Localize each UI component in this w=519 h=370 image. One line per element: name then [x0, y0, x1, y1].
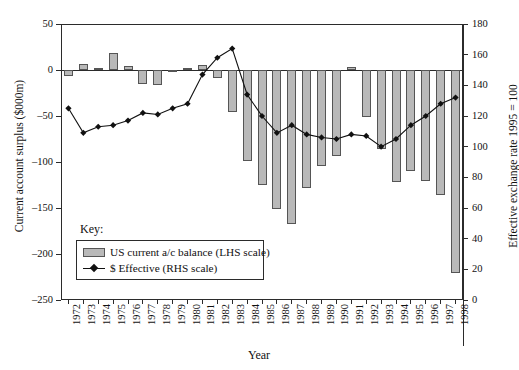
right-axis-tick-label: 20 [472, 264, 483, 275]
right-axis-tick [463, 177, 468, 178]
legend-entry-bar: US current a/c balance (LHS scale) [83, 245, 270, 258]
x-axis-title: Year [0, 348, 518, 363]
x-axis-tick-label: 1988 [311, 304, 322, 325]
right-axis-spine [463, 24, 464, 346]
x-axis-tick-label: 1979 [177, 304, 188, 325]
left-axis-tick [56, 24, 61, 25]
x-axis-tick [321, 300, 322, 304]
x-axis-tick-label: 1984 [251, 304, 262, 325]
x-axis-tick [351, 300, 352, 304]
x-axis-tick [202, 300, 203, 304]
bar [332, 70, 341, 156]
bar [436, 70, 445, 195]
x-axis-tick [98, 300, 99, 304]
x-axis-tick-label: 1998 [460, 304, 471, 325]
right-axis-tick [463, 269, 468, 270]
bar [347, 67, 356, 70]
bar [302, 70, 311, 188]
right-axis-tick-label: 160 [472, 49, 488, 60]
right-axis-tick [463, 54, 468, 55]
x-axis-tick-label: 1983 [236, 304, 247, 325]
x-axis-tick [187, 300, 188, 304]
right-axis-tick-label: 0 [472, 295, 477, 306]
bar [317, 70, 326, 166]
x-axis-tick-label: 1995 [415, 304, 426, 325]
right-axis-tick-label: 100 [472, 141, 488, 152]
bar [153, 70, 162, 85]
left-axis-tick [56, 254, 61, 255]
right-axis-tick-label: 80 [472, 172, 483, 183]
x-axis-tick [157, 300, 158, 304]
x-axis-tick-label: 1993 [385, 304, 396, 325]
left-axis-tick [56, 70, 61, 71]
bar [94, 68, 103, 70]
x-axis-tick [83, 300, 84, 304]
x-axis-tick-label: 1978 [162, 304, 173, 325]
x-axis-tick-label: 1974 [102, 304, 113, 325]
x-axis-tick [172, 300, 173, 304]
right-axis-tick [463, 146, 468, 147]
left-axis-tick-label: 0 [48, 65, 53, 76]
x-axis-tick [113, 300, 114, 304]
bar [213, 70, 222, 78]
left-axis-tick-label: 50 [43, 19, 54, 30]
left-axis-tick-label: –250 [32, 295, 53, 306]
bar [406, 70, 415, 171]
x-axis-tick-label: 1997 [445, 304, 456, 325]
left-axis-tick-label: –200 [32, 249, 53, 260]
x-axis-tick-label: 1977 [147, 304, 158, 325]
x-axis-tick [291, 300, 292, 304]
x-axis-tick [247, 300, 248, 304]
left-axis-tick [56, 300, 61, 301]
x-axis-tick [440, 300, 441, 304]
x-axis-tick [128, 300, 129, 304]
x-axis-tick [262, 300, 263, 304]
x-axis-tick-label: 1980 [192, 304, 203, 325]
left-axis-tick-label: –150 [32, 203, 53, 214]
bar [451, 70, 460, 273]
x-axis-tick-label: 1981 [206, 304, 217, 325]
bar [287, 70, 296, 224]
x-axis-tick-label: 1972 [72, 304, 83, 325]
bar [109, 53, 118, 70]
bar [258, 70, 267, 185]
left-axis-tick-label: –50 [37, 111, 53, 122]
x-axis-tick [232, 300, 233, 304]
x-axis-tick-label: 1975 [117, 304, 128, 325]
bar [421, 70, 430, 181]
bar [168, 70, 177, 72]
legend-box: US current a/c balance (LHS scale) $ Eff… [76, 240, 264, 280]
legend-entry-bar-label: US current a/c balance (LHS scale) [110, 246, 270, 258]
line-marker-swatch-icon [83, 264, 105, 273]
x-axis-tick [142, 300, 143, 304]
right-axis-title: Effective exchange rate 1995 = 100 [507, 41, 519, 291]
x-axis-tick [410, 300, 411, 304]
x-axis-tick [381, 300, 382, 304]
bar [377, 70, 386, 149]
legend-entry-line: $ Effective (RHS scale) [83, 261, 217, 274]
left-axis-tick [56, 208, 61, 209]
x-axis-tick [396, 300, 397, 304]
x-axis-tick-label: 1992 [370, 304, 381, 325]
right-axis-tick [463, 24, 468, 25]
bar [198, 65, 207, 70]
x-axis-tick [425, 300, 426, 304]
bar [124, 66, 133, 70]
x-axis-tick-label: 1996 [430, 304, 441, 325]
right-axis-tick-label: 180 [472, 19, 488, 30]
left-axis-tick [56, 162, 61, 163]
left-axis: 500–50–100–150–200–250 [0, 0, 61, 370]
bar [138, 70, 147, 84]
bar [183, 68, 192, 70]
right-axis-tick-label: 140 [472, 80, 488, 91]
right-axis-tick-label: 120 [472, 111, 488, 122]
x-axis-tick [276, 300, 277, 304]
right-axis-tick-label: 40 [472, 233, 483, 244]
bar [362, 70, 371, 117]
bar [272, 70, 281, 209]
right-axis-tick [463, 238, 468, 239]
right-axis-tick [463, 116, 468, 117]
x-axis-tick [336, 300, 337, 304]
x-axis-tick-label: 1989 [326, 304, 337, 325]
right-axis-tick-label: 60 [472, 203, 483, 214]
